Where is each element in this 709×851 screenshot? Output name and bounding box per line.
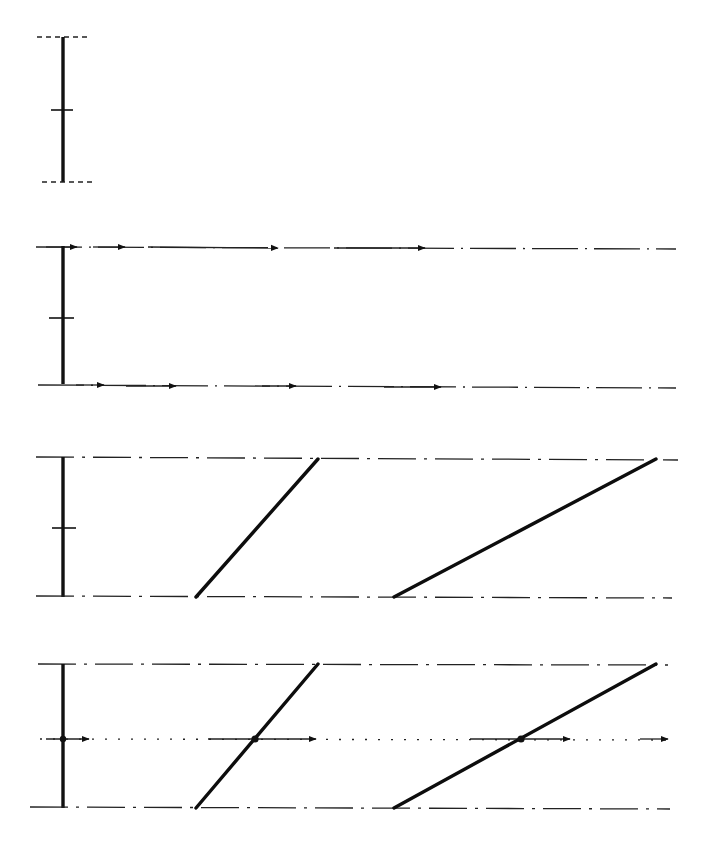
slanted-line-1: [196, 459, 318, 597]
middle-dotted-line: [40, 739, 668, 740]
bottom-dashdot-line: [36, 596, 672, 598]
panel-2: [36, 246, 676, 388]
panel-4: [30, 664, 670, 809]
intersection-dot: [60, 736, 66, 742]
top-dashdot-line: [36, 457, 678, 460]
slanted-line-2: [394, 459, 656, 597]
top-dashdot-line: [38, 664, 668, 665]
slanted-line-2: [394, 664, 656, 808]
panel-1: [37, 37, 92, 182]
slanted-line-1: [196, 664, 318, 808]
diagram-canvas: [0, 0, 709, 851]
bottom-dashdot-line: [30, 807, 670, 809]
intersection-dot: [517, 735, 524, 742]
intersection-dot: [251, 735, 258, 742]
panel-3: [36, 457, 678, 598]
